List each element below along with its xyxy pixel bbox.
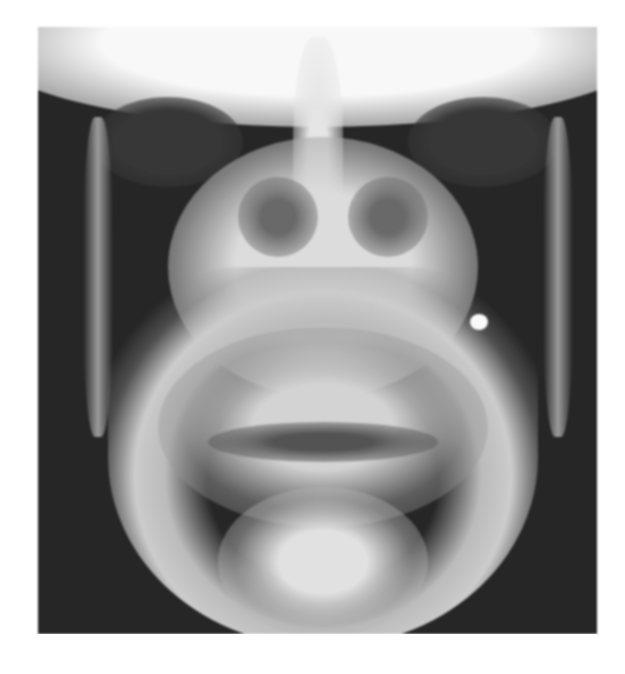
occlusal-gap (208, 422, 438, 462)
radiopaque-spot (470, 314, 488, 330)
left-maxillary-sinus (238, 177, 318, 257)
right-maxillary-sinus (348, 177, 428, 257)
chin-symphysis (218, 487, 428, 634)
caption-area (38, 634, 597, 674)
xray-image (38, 27, 597, 634)
right-mandibular-ramus (543, 117, 573, 437)
